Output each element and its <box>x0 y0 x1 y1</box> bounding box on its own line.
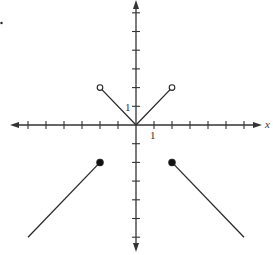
y-axis-bottom-arrow-icon <box>133 243 139 252</box>
x-axis-label: x <box>264 118 270 130</box>
stray-dot <box>0 22 2 24</box>
x-axis-right-arrow-icon <box>253 122 262 128</box>
open-endpoint <box>97 85 103 91</box>
curve-segment <box>28 162 100 237</box>
closed-endpoint <box>169 159 175 165</box>
y-axis <box>132 0 140 252</box>
y-unit-label: 1 <box>125 101 131 113</box>
curve-segment <box>172 162 244 237</box>
open-endpoint <box>169 85 175 91</box>
x-unit-label: 1 <box>150 129 156 141</box>
x-axis-left-arrow-icon <box>10 122 19 128</box>
y-axis-top-arrow-icon <box>133 0 139 9</box>
piecewise-graph: x 1 1 <box>0 0 273 255</box>
closed-endpoint <box>97 159 103 165</box>
